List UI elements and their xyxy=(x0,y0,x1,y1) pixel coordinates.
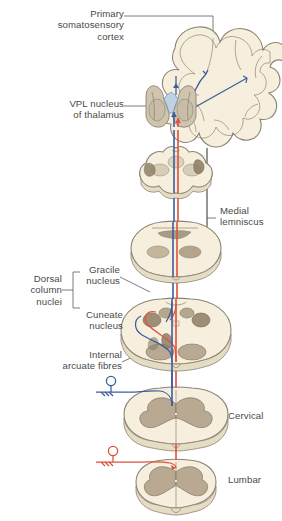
midbrain-section xyxy=(140,147,213,199)
lumbar-cord-section xyxy=(96,446,216,515)
label-gracile-nucleus: Gracile nucleus xyxy=(58,264,120,287)
label-cuneate-nucleus: Cuneate nucleus xyxy=(58,309,123,332)
label-vpl-nucleus-of-thalamus: VPL nucleus of thalamus xyxy=(24,98,124,121)
label-dorsal-column-nuclei: Dorsal column nuclei xyxy=(4,273,62,307)
cervical-cord-section xyxy=(96,362,228,451)
label-primary-somatosensory-cortex: Primary somatosensory cortex xyxy=(14,8,124,42)
label-lumbar: Lumbar xyxy=(228,474,282,485)
figure-canvas: .tissue { fill:#f6efdd; stroke:#8d8374; … xyxy=(0,0,282,521)
label-medial-lemniscus: Medial lemniscus xyxy=(220,205,282,228)
pons-section xyxy=(131,221,221,283)
label-internal-arcuate-fibres: Internal arcuate fibres xyxy=(30,349,122,372)
label-cervical: Cervical xyxy=(228,410,282,421)
pathway-diagram: .tissue { fill:#f6efdd; stroke:#8d8374; … xyxy=(0,0,282,521)
